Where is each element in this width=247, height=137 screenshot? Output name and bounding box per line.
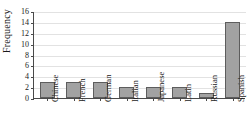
y-tick-mark (31, 12, 34, 13)
gridline (34, 56, 246, 57)
x-tick-label: Russian (209, 75, 220, 102)
y-tick-mark (31, 56, 34, 57)
x-tick-label: German (103, 75, 114, 102)
x-tick-label: French (77, 78, 88, 102)
y-tick-label: 16 (21, 8, 29, 16)
x-tick-label: Japanese (156, 72, 167, 102)
x-tick-label: Latin (183, 84, 194, 102)
chart-title (0, 0, 247, 2)
x-tick-mark (233, 98, 234, 101)
y-tick-mark (31, 23, 34, 24)
x-axis-labels: ChineseFrenchGermanItalianJapaneseLatinR… (33, 102, 245, 137)
y-tick-label: 0 (25, 95, 29, 103)
gridline (34, 66, 246, 67)
y-tick-mark (31, 66, 34, 67)
y-tick-label: 14 (21, 19, 29, 27)
bar-chart: Frequency 0246810121416 ChineseFrenchGer… (0, 0, 247, 137)
y-tick-mark (31, 45, 34, 46)
y-axis-label: Frequency (1, 0, 13, 71)
x-tick-mark (74, 98, 75, 101)
x-tick-mark (153, 98, 154, 101)
x-tick-label: Italian (130, 80, 141, 102)
y-tick-label: 4 (25, 73, 29, 81)
y-tick-mark (31, 77, 34, 78)
x-tick-mark (100, 98, 101, 101)
y-tick-label: 2 (25, 84, 29, 92)
x-tick-mark (127, 98, 128, 101)
gridline (34, 45, 246, 46)
x-tick-mark (206, 98, 207, 101)
y-tick-mark (31, 99, 34, 100)
x-tick-mark (47, 98, 48, 101)
x-tick-mark (180, 98, 181, 101)
y-tick-label: 8 (25, 52, 29, 60)
gridline (34, 34, 246, 35)
y-tick-label: 12 (21, 30, 29, 38)
y-tick-label: 6 (25, 62, 29, 70)
y-tick-label: 10 (21, 41, 29, 49)
x-tick-label: Spanish (236, 75, 247, 102)
gridline (34, 12, 246, 13)
y-tick-mark (31, 88, 34, 89)
gridline (34, 23, 246, 24)
y-tick-mark (31, 34, 34, 35)
x-tick-label: Chinese (50, 75, 61, 102)
